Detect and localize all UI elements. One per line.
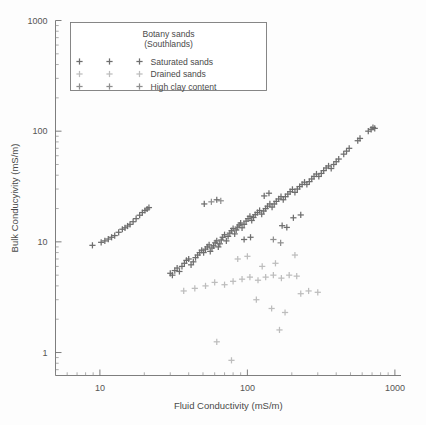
data-point (272, 260, 278, 266)
figure-container: 1010010001101001000Fluid Conductivity (m… (0, 0, 426, 425)
data-point (241, 236, 247, 242)
data-point (201, 201, 207, 207)
legend-title-line1: Botany sands (142, 29, 194, 39)
data-point (192, 285, 198, 291)
legend-label-1: Saturated sands (151, 57, 214, 67)
x-tick-label: 100 (240, 383, 255, 393)
data-point (218, 198, 224, 204)
data-point (181, 288, 187, 294)
data-point (232, 231, 238, 237)
y-tick-label: 10 (37, 237, 47, 247)
x-axis-label: Fluid Conductivity (mS/m) (174, 400, 283, 411)
x-tick-label: 10 (95, 383, 105, 393)
data-points-group (89, 124, 377, 363)
data-point (221, 282, 227, 288)
data-point (255, 277, 261, 283)
data-point (212, 279, 218, 285)
data-point (133, 216, 139, 222)
data-point (230, 278, 236, 284)
data-point (208, 199, 214, 205)
data-point (247, 234, 253, 240)
legend: Botany sands(Southlands)Saturated sandsD… (71, 23, 267, 92)
data-point (269, 305, 275, 311)
legend-title-line2: (Southlands) (144, 39, 193, 49)
series-1 (89, 124, 377, 278)
data-point (294, 273, 300, 279)
data-point (278, 275, 284, 281)
scatter-plot: 1010010001101001000Fluid Conductivity (m… (0, 0, 426, 425)
legend-label-3: High clay content (151, 82, 218, 92)
data-point (286, 272, 292, 278)
x-tick-label: 1000 (385, 383, 405, 393)
data-point (202, 283, 208, 289)
data-point (239, 276, 245, 282)
data-point (247, 274, 253, 280)
data-point (228, 357, 234, 363)
series-2 (181, 252, 321, 363)
data-point (270, 236, 276, 242)
data-point (214, 197, 220, 203)
data-point (282, 309, 288, 315)
data-point (214, 339, 220, 345)
data-point (276, 327, 282, 333)
legend-label-2: Drained sands (151, 69, 206, 79)
data-point (89, 242, 95, 248)
data-point (298, 212, 304, 218)
data-point (98, 239, 104, 245)
data-point (298, 291, 304, 297)
y-tick-label: 1 (42, 348, 47, 358)
data-point (233, 227, 239, 233)
data-point (306, 288, 312, 294)
y-tick-label: 100 (32, 126, 47, 136)
data-point (270, 272, 276, 278)
data-point (278, 240, 284, 246)
data-point (235, 256, 241, 262)
y-tick-label: 1000 (27, 16, 47, 26)
data-point (290, 215, 296, 221)
data-point (292, 252, 298, 258)
data-point (116, 229, 122, 235)
y-axis-label: Bulk Conducyivity (mS/m) (9, 144, 20, 253)
data-point (217, 241, 223, 247)
data-point (215, 244, 221, 250)
data-point (244, 253, 250, 259)
data-point (315, 289, 321, 295)
data-point (253, 297, 259, 303)
data-point (259, 263, 265, 269)
data-point (263, 274, 269, 280)
